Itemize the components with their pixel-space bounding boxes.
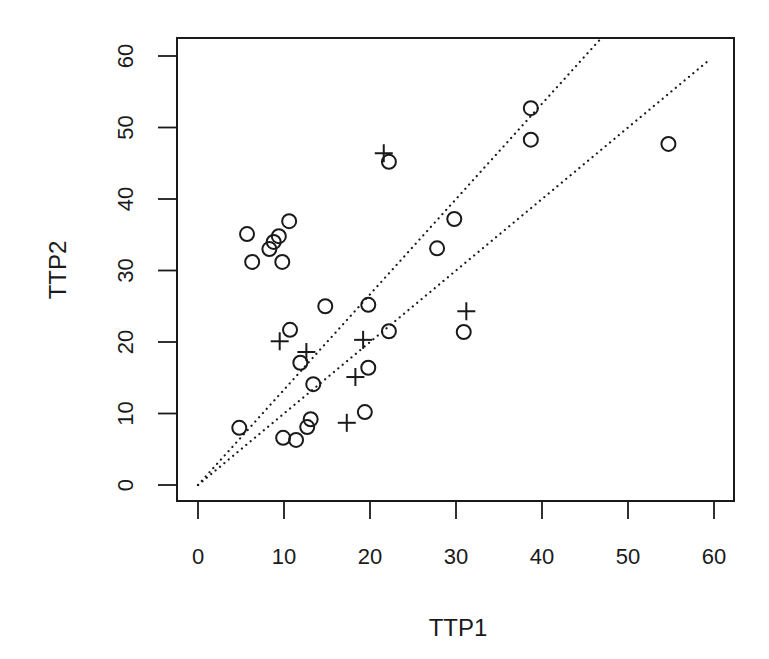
data-point-circle bbox=[275, 255, 289, 269]
data-points bbox=[232, 101, 675, 447]
data-point-plus bbox=[375, 144, 393, 162]
plot-area bbox=[177, 38, 734, 501]
x-axis-title: TTP1 bbox=[429, 614, 488, 641]
data-point-circle bbox=[524, 133, 538, 147]
y-tick-label: 50 bbox=[113, 115, 138, 139]
data-point-circle bbox=[276, 431, 290, 445]
data-point-circle bbox=[457, 325, 471, 339]
data-point-circle bbox=[361, 298, 375, 312]
scatter-plot: 0102030405060 0102030405060 TTP1 TTP2 bbox=[0, 0, 769, 659]
x-tick-label: 20 bbox=[358, 544, 382, 569]
x-tick-label: 10 bbox=[272, 544, 296, 569]
y-tick-label: 30 bbox=[113, 258, 138, 282]
data-point-circle bbox=[293, 356, 307, 370]
data-point-plus bbox=[457, 302, 475, 320]
y-tick-label: 0 bbox=[113, 479, 138, 491]
y-axis: 0102030405060 bbox=[113, 44, 177, 491]
data-point-circle bbox=[245, 255, 259, 269]
data-point-circle bbox=[661, 137, 675, 151]
data-point-plus bbox=[338, 414, 356, 432]
data-point-circle bbox=[232, 421, 246, 435]
y-tick-label: 40 bbox=[113, 187, 138, 211]
y-tick-label: 60 bbox=[113, 44, 138, 68]
data-point-circle bbox=[430, 241, 444, 255]
data-point-circle bbox=[306, 377, 320, 391]
data-point-circle bbox=[382, 324, 396, 338]
data-point-circle bbox=[358, 405, 372, 419]
x-tick-label: 30 bbox=[444, 544, 468, 569]
x-tick-label: 0 bbox=[192, 544, 204, 569]
y-axis-title: TTP2 bbox=[44, 241, 71, 300]
data-point-circle bbox=[447, 212, 461, 226]
data-point-circle bbox=[240, 227, 254, 241]
data-point-circle bbox=[361, 361, 375, 375]
data-point-circle bbox=[283, 323, 297, 337]
y-tick-label: 10 bbox=[113, 401, 138, 425]
x-tick-label: 50 bbox=[616, 544, 640, 569]
y-tick-label: 20 bbox=[113, 330, 138, 354]
data-point-circle bbox=[289, 433, 303, 447]
x-tick-label: 40 bbox=[530, 544, 554, 569]
data-point-circle bbox=[524, 101, 538, 115]
data-point-plus bbox=[354, 331, 372, 349]
reference-line-identity bbox=[198, 60, 710, 485]
x-tick-label: 60 bbox=[702, 544, 726, 569]
data-point-circle bbox=[318, 299, 332, 313]
data-point-circle bbox=[282, 214, 296, 228]
x-axis: 0102030405060 bbox=[192, 501, 726, 569]
